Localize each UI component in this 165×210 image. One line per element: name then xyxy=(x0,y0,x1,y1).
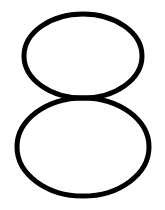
figure-canvas xyxy=(0,0,165,210)
digit-eight-icon xyxy=(0,0,165,210)
bottom-loop-ellipse xyxy=(17,98,149,196)
top-loop-ellipse xyxy=(24,14,142,98)
